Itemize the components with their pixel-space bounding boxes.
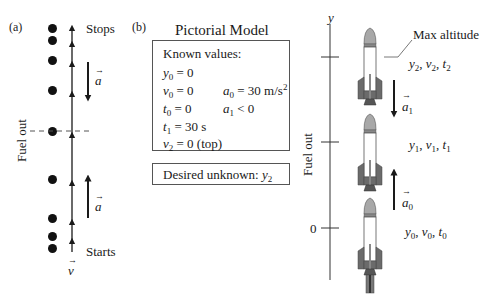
y-axis-label: y — [328, 11, 334, 24]
zero-label: 0 — [310, 222, 317, 235]
rocket-top — [358, 28, 382, 105]
point-label-0: y0, v0, t0 — [405, 225, 447, 238]
accel-a1-label: a1 — [402, 100, 413, 113]
point-label-1: y1, v1, t1 — [409, 138, 451, 151]
rocket-bottom — [358, 198, 382, 293]
rocket-middle — [358, 114, 382, 191]
fuel-out-label-c: Fuel out — [300, 133, 316, 176]
max-altitude-label: Max altitude — [413, 28, 479, 41]
point-label-2: y2, v2, t2 — [409, 57, 451, 70]
max-altitude-leader — [384, 40, 412, 57]
accel-a0-label: a0 — [402, 196, 413, 209]
